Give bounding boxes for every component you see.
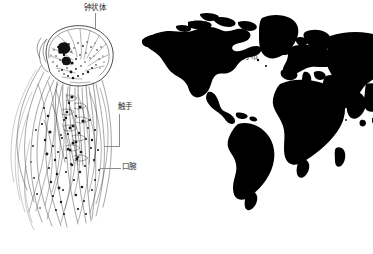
leader-line-bell <box>95 13 96 29</box>
figure-root: 钟状体 触手 口腕 分布 <box>0 0 373 254</box>
label-oral-arms: 口腕 <box>122 162 137 172</box>
leader-line-tentacles-vertical <box>119 114 120 147</box>
distribution-map: 分布 <box>140 0 373 254</box>
label-bell: 钟状体 <box>84 3 106 13</box>
world-map-silhouette <box>140 0 373 254</box>
label-tentacles: 触手 <box>118 102 133 112</box>
leader-line-tentacles-horizontal <box>104 146 120 147</box>
jellyfish-illustration: 钟状体 触手 口腕 <box>0 0 150 254</box>
jellyfish-drawing <box>0 0 150 254</box>
leader-line-oral-arms <box>100 168 121 169</box>
